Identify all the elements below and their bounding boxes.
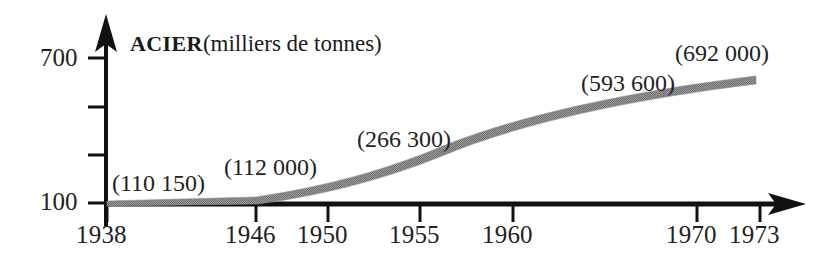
x-axis-label-1955: 1955 [389,222,440,247]
x-axis-label-1946: 1946 [225,222,276,247]
x-axis-label-1970: 1970 [666,222,717,247]
data-label-1946: (112 000) [224,155,317,179]
data-label-1955: (266 300) [357,127,451,151]
data-label-1938: (110 150) [112,171,205,195]
data-label-1970: (593 600) [581,71,675,95]
x-axis-label-1960: 1960 [482,222,533,247]
chart-title-series: ACIER [130,31,203,56]
x-axis-label-1950: 1950 [297,222,348,247]
y-axis-label-700: 700 [40,45,78,70]
y-axis-label-100: 100 [40,189,78,214]
x-axis-label-1973: 1973 [729,222,780,247]
x-axis-label-1938: 1938 [76,222,127,247]
steel-production-line-chart: ACIER(milliers de tonnes) 700 100 1938 1… [0,0,840,266]
data-label-1973: (692 000) [675,41,769,65]
chart-title: ACIER(milliers de tonnes) [130,32,382,55]
chart-title-unit: (milliers de tonnes) [203,31,382,56]
